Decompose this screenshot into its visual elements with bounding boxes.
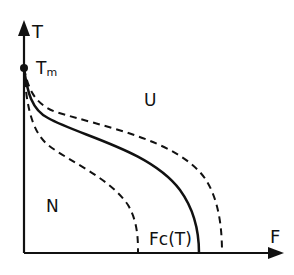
tm-label: Tm — [35, 58, 57, 79]
curve-label: Fc(T) — [149, 229, 192, 249]
phase-diagram: T Tm U N Fc(T) F — [0, 0, 294, 275]
y-axis-label: T — [31, 21, 44, 42]
critical-curve — [24, 68, 199, 253]
y-axis-arrow-icon — [18, 20, 30, 36]
tm-point — [20, 64, 28, 72]
outer-dashed-curve — [24, 68, 222, 253]
inner-dashed-curve — [24, 68, 138, 253]
region-u-label: U — [144, 90, 156, 110]
x-axis-arrow-icon — [268, 247, 284, 259]
region-n-label: N — [46, 196, 59, 216]
x-axis-label: F — [270, 226, 280, 247]
